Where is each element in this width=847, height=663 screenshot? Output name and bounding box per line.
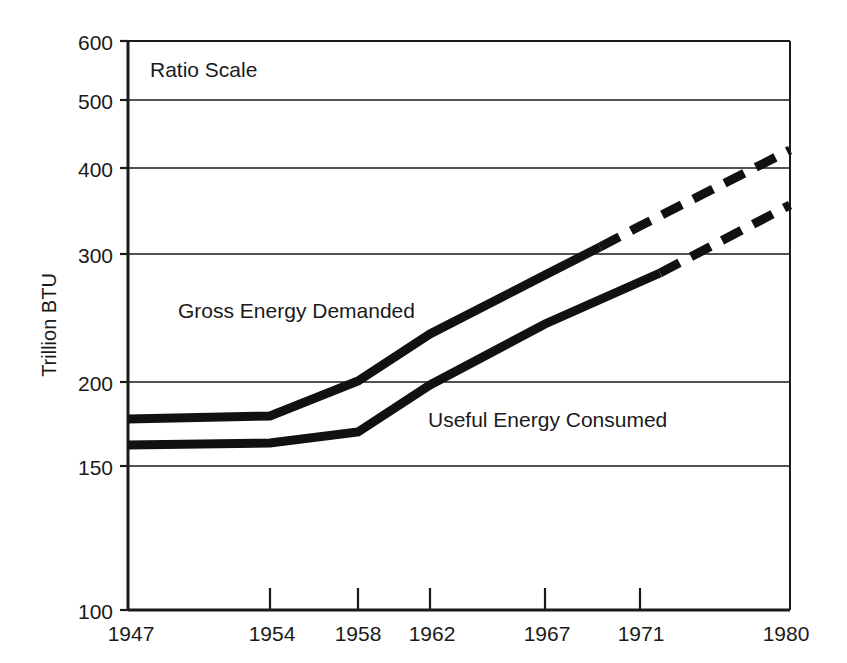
energy-demand-line-chart: 600 500 400 300 200 150 100 1947 1954 19… <box>0 0 847 663</box>
chart-container: 600 500 400 300 200 150 100 1947 1954 19… <box>0 0 847 663</box>
ratio-scale-annotation: Ratio Scale <box>150 58 257 81</box>
y-tick-label-200: 200 <box>78 372 113 395</box>
y-tick-labels: 600 500 400 300 200 150 100 <box>78 31 113 623</box>
series-line-useful-energy-consumed-projection <box>660 205 790 273</box>
y-tick-label-400: 400 <box>78 158 113 181</box>
x-tick-label-1958: 1958 <box>335 622 382 645</box>
series-line-gross-energy-demanded-projection <box>600 150 790 247</box>
y-tick-label-500: 500 <box>78 90 113 113</box>
plot-frame <box>128 41 790 610</box>
x-tick-label-1962: 1962 <box>409 622 456 645</box>
x-tick-label-1967: 1967 <box>524 622 571 645</box>
y-tick-label-600: 600 <box>78 31 113 54</box>
series-label-gross-energy-demanded: Gross Energy Demanded <box>178 299 415 322</box>
x-tick-labels: 1947 1954 1958 1962 1967 1971 1980 <box>108 622 810 645</box>
x-tick-marks <box>270 588 640 610</box>
series-label-useful-energy-consumed: Useful Energy Consumed <box>428 408 667 431</box>
x-tick-label-1980: 1980 <box>763 622 810 645</box>
y-tick-label-100: 100 <box>78 600 113 623</box>
x-tick-label-1954: 1954 <box>249 622 296 645</box>
y-tick-label-300: 300 <box>78 244 113 267</box>
y-axis-title: Trillion BTU <box>38 273 60 377</box>
x-tick-label-1971: 1971 <box>618 622 665 645</box>
x-tick-label-1947: 1947 <box>108 622 155 645</box>
y-tick-label-150: 150 <box>78 456 113 479</box>
